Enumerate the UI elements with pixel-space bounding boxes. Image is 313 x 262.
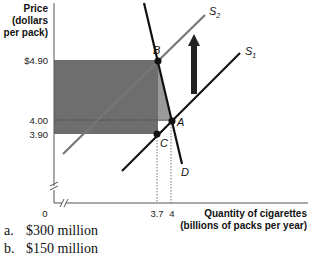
answer-choice-b: b. $150 million <box>4 240 98 258</box>
answer-letter: b. <box>4 240 26 258</box>
point-a <box>169 118 176 125</box>
x-axis-title-1: Quantity of cigarettes <box>204 208 307 219</box>
x-tick-0: 0 <box>42 208 47 219</box>
y-axis-title-1: Price <box>24 3 49 14</box>
answer-text: $300 million <box>26 222 98 240</box>
x-axis-title-2: (billions of packs per year) <box>180 220 307 231</box>
y-tick-3-90: 3.90 <box>30 129 49 140</box>
label-c: C <box>160 137 168 149</box>
y-axis-title-2: (dollars <box>12 15 49 26</box>
label-b: B <box>153 44 160 56</box>
point-b <box>155 58 162 65</box>
y-tick-4-90: $4.90 <box>24 55 48 66</box>
x-tick-3-7: 3.7 <box>150 208 163 219</box>
label-d: D <box>181 166 189 178</box>
shift-arrow-shaft <box>191 45 197 94</box>
shift-arrow-icon <box>188 34 200 46</box>
y-axis-title-3: per pack) <box>4 27 48 38</box>
answer-letter: a. <box>4 222 26 240</box>
label-s2: S2 <box>209 5 220 19</box>
label-s1: S1 <box>245 45 256 59</box>
answer-choice-a: a. $300 million <box>4 222 98 240</box>
tax-revenue-area <box>54 60 158 134</box>
answer-choices: a. $300 million b. $150 million <box>4 222 98 258</box>
x-tick-4: 4 <box>169 208 174 219</box>
label-a: A <box>176 116 184 128</box>
y-tick-4-00: 4.00 <box>30 115 49 126</box>
answer-text: $150 million <box>26 240 98 258</box>
